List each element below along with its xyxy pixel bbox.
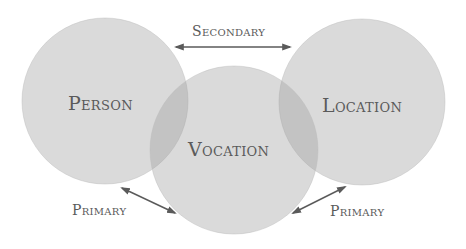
location-label: Location: [322, 96, 402, 115]
person-label: Person: [68, 94, 133, 113]
vocation-label: Vocation: [188, 140, 269, 159]
primary-label-right: Primary: [330, 204, 384, 218]
primary-label-left: Primary: [72, 203, 126, 217]
secondary-label: Secondary: [192, 24, 265, 38]
